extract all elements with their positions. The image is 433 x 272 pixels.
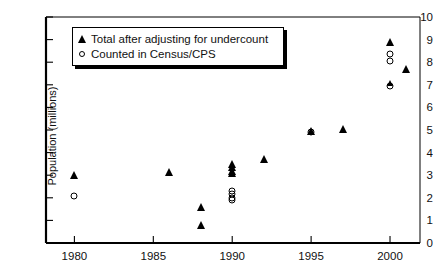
data-point-total-adjusted <box>402 65 410 73</box>
legend-label-counted: Counted in Census/CPS <box>91 48 216 60</box>
data-point-counted <box>229 197 236 204</box>
data-point-total-adjusted <box>386 38 394 46</box>
data-point-counted <box>71 192 78 199</box>
legend-label-total: Total after adjusting for undercount <box>91 33 268 45</box>
data-point-total-adjusted <box>165 168 173 176</box>
data-point-total-adjusted <box>197 203 205 211</box>
open-circle-icon <box>79 51 85 57</box>
data-point-counted <box>387 58 394 65</box>
data-point-total-adjusted <box>197 221 205 229</box>
data-point-counted <box>387 82 394 89</box>
legend: Total after adjusting for undercount Cou… <box>72 27 284 66</box>
data-point-total-adjusted <box>70 171 78 179</box>
filled-triangle-icon <box>78 35 86 43</box>
data-point-counted <box>308 129 315 136</box>
data-point-total-adjusted <box>339 125 347 133</box>
data-point-total-adjusted <box>228 169 236 177</box>
scatter-chart: Population (millions) 109876543210 19801… <box>0 0 433 272</box>
legend-item-counted: Counted in Census/CPS <box>78 46 275 61</box>
legend-item-total: Total after adjusting for undercount <box>78 31 275 46</box>
data-point-total-adjusted <box>260 155 268 163</box>
